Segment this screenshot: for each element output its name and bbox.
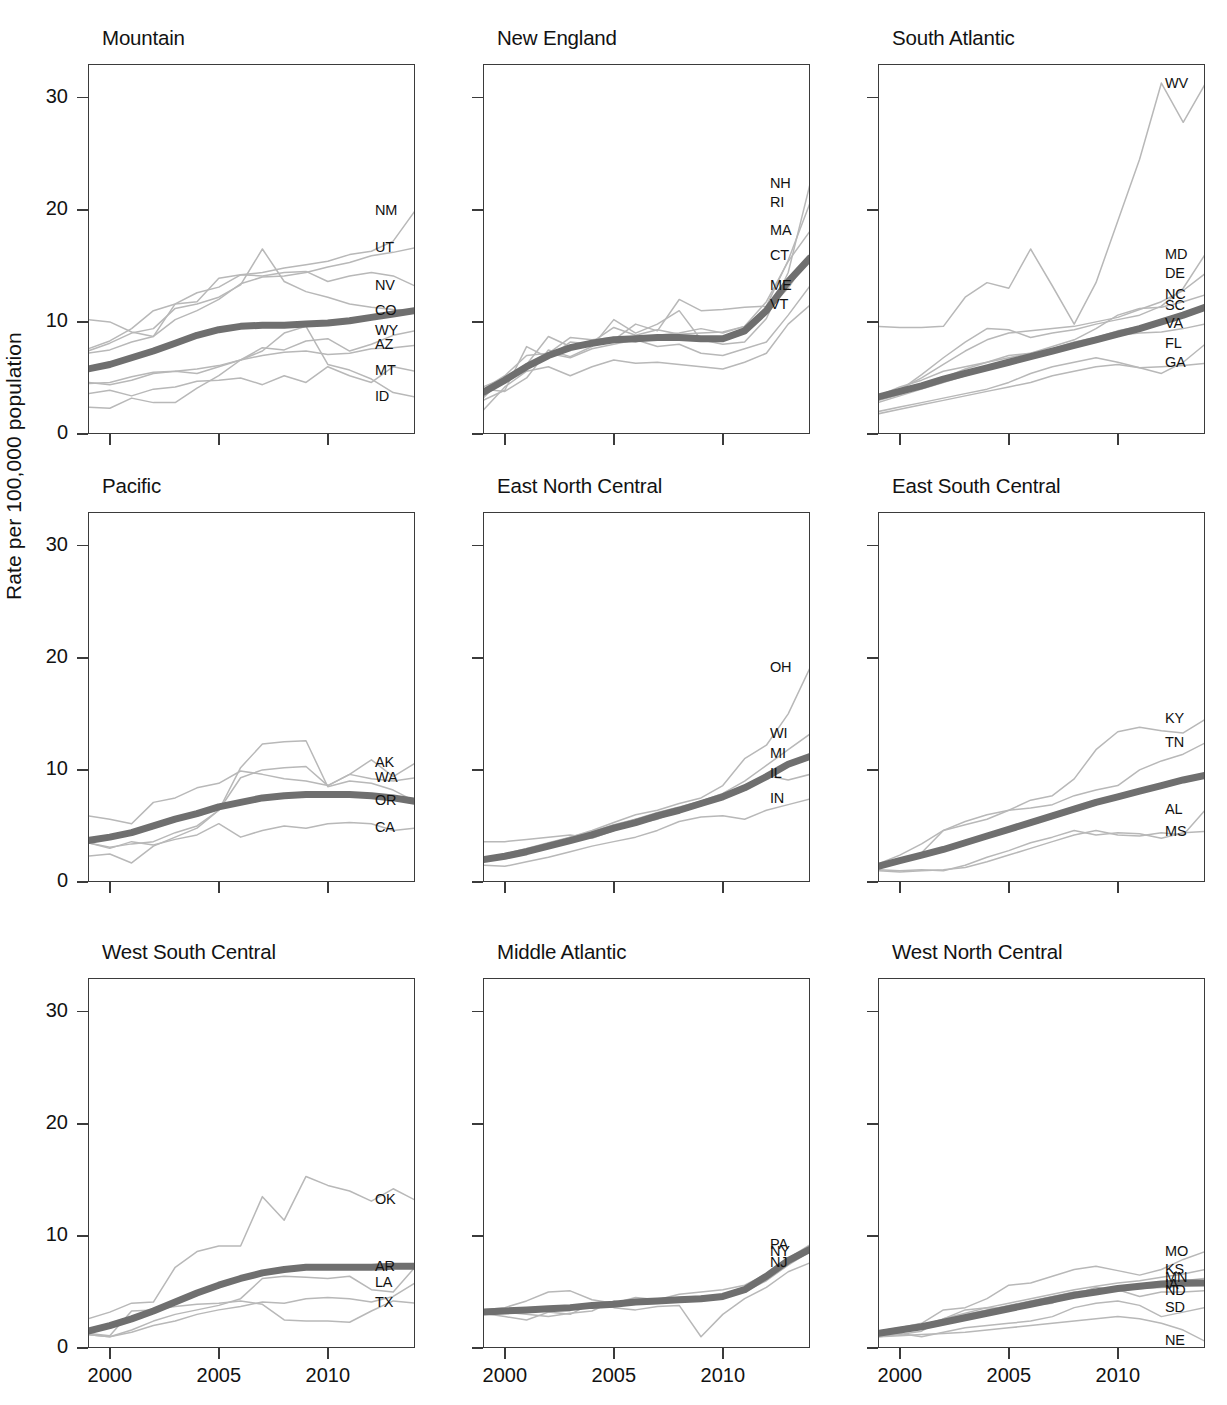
series-label-NE: NE — [1165, 1332, 1185, 1348]
series-label-MO: MO — [1165, 1243, 1188, 1259]
state-line-SD — [878, 1301, 1205, 1337]
state-line-ND — [878, 1287, 1205, 1336]
small-multiples-figure: Rate per 100,000 population Mountain0102… — [0, 0, 1227, 1405]
regional-average-line — [878, 1283, 1205, 1333]
series-label-IA: IA — [1165, 1276, 1178, 1292]
series-lines-west-north-central — [0, 0, 1227, 1405]
series-label-SD: SD — [1165, 1299, 1185, 1315]
